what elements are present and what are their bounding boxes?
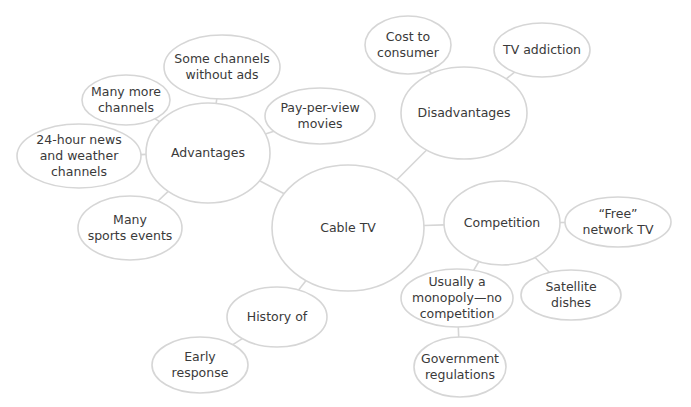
node-cable-tv: Cable TV <box>272 165 424 291</box>
mind-map-diagram: Cable TVAdvantagesSome channelswithout a… <box>0 0 691 407</box>
node-label-line: dishes <box>551 295 591 310</box>
node-label-line: Many more <box>91 84 161 99</box>
node-many-more-channels: Many morechannels <box>82 75 170 125</box>
node-label-line: Competition <box>464 215 541 230</box>
node-label-line: regulations <box>425 367 495 382</box>
node-cost-to-consumer: Cost toconsumer <box>365 16 451 74</box>
node-satellite-dishes: Satellitedishes <box>521 270 621 320</box>
node-usually-a-monopoly: Usually amonopoly—nocompetition <box>401 269 513 327</box>
node-label-line: Many <box>113 212 147 227</box>
node-label: Satellitedishes <box>545 279 597 310</box>
edge-cable-tv-to-disadvantages <box>397 150 427 180</box>
node-label-line: competition <box>420 306 495 321</box>
node-label-line: Some channels <box>174 51 269 66</box>
node-label-line: consumer <box>377 45 440 60</box>
node-label-line: Disadvantages <box>418 105 511 120</box>
node-competition: Competition <box>444 181 560 265</box>
node-label-line: 24-hour news <box>36 132 121 147</box>
node-label-line: “Free” <box>598 206 637 221</box>
node-label: TV addiction <box>502 42 581 57</box>
edge-advantages-to-pay-per-view-movies <box>265 131 274 134</box>
node-label-line: Pay-per-view <box>280 100 359 115</box>
node-label: Some channelswithout ads <box>174 51 269 82</box>
node-many-sports-events: Manysports events <box>78 196 182 260</box>
node-government-regulations: Governmentregulations <box>414 337 506 397</box>
node-label-line: monopoly—no <box>412 290 502 305</box>
edge-disadvantages-to-tv-addiction <box>506 72 514 79</box>
node-pay-per-view-movies: Pay-per-viewmovies <box>265 88 375 144</box>
node-label: Competition <box>464 215 541 230</box>
node-tv-addiction: TV addiction <box>494 23 590 77</box>
node-label: Disadvantages <box>418 105 511 120</box>
node-some-channels-without-ads: Some channelswithout ads <box>164 35 280 99</box>
node-label: Governmentregulations <box>421 351 499 382</box>
node-label-line: History of <box>247 309 308 324</box>
node-label-line: without ads <box>185 67 258 82</box>
node-advantages: Advantages <box>146 103 270 203</box>
node-label-line: sports events <box>88 228 173 243</box>
node-label: History of <box>247 309 308 324</box>
node-label-line: and weather <box>40 148 120 163</box>
edge-cable-tv-to-advantages <box>260 181 285 194</box>
edge-competition-to-satellite-dishes <box>535 258 549 273</box>
node-news-weather-channels: 24-hour newsand weatherchannels <box>17 124 141 188</box>
edge-history-of-to-early-response <box>233 339 243 345</box>
node-label-line: channels <box>98 100 154 115</box>
node-label-line: movies <box>298 116 343 131</box>
node-label: Advantages <box>171 145 245 160</box>
node-label-line: Satellite <box>545 279 597 294</box>
node-label-line: Early <box>184 349 216 364</box>
node-label-line: Advantages <box>171 145 245 160</box>
node-label-line: Cable TV <box>320 220 376 235</box>
edge-competition-to-usually-a-monopoly <box>474 262 479 271</box>
node-history-of: History of <box>227 287 327 347</box>
nodes-layer: Cable TVAdvantagesSome channelswithout a… <box>17 16 671 397</box>
node-disadvantages: Disadvantages <box>401 67 527 159</box>
edge-cable-tv-to-history-of <box>299 281 307 290</box>
node-label-line: Usually a <box>428 274 485 289</box>
node-label-line: response <box>172 365 229 380</box>
node-label-line: channels <box>51 164 107 179</box>
node-label-line: TV addiction <box>502 42 581 57</box>
node-label-line: Cost to <box>386 29 430 44</box>
edge-advantages-to-many-sports-events <box>158 191 168 201</box>
node-label-line: network TV <box>583 222 654 237</box>
node-label-line: Government <box>421 351 499 366</box>
edge-cable-tv-to-competition <box>424 225 444 226</box>
node-free-network-tv: “Free”network TV <box>565 197 671 247</box>
node-label: Cable TV <box>320 220 376 235</box>
node-early-response: Earlyresponse <box>152 337 248 393</box>
node-label: Many morechannels <box>91 84 161 115</box>
